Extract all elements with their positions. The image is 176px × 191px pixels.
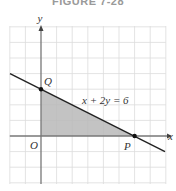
point-p-label: P <box>123 140 131 152</box>
equation-label: x + 2y = 6 <box>81 94 129 106</box>
point-q-label: Q <box>44 75 52 87</box>
y-axis-arrow-icon <box>39 25 44 31</box>
graph: y x O Q P x + 2y = 6 <box>0 0 176 191</box>
x-axis-label: x <box>167 130 173 142</box>
point-p-marker <box>132 134 136 138</box>
point-q-marker <box>39 87 43 91</box>
origin-label: O <box>30 139 38 151</box>
y-axis-label: y <box>37 12 43 24</box>
